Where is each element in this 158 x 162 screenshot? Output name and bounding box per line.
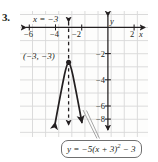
vertex-label: (−3, −3) [23, 52, 55, 61]
y-tick-label-neg8: −8 [96, 115, 105, 124]
equation-lead: y = −5(x + 3) [67, 144, 117, 154]
y-axis-label: y [110, 17, 114, 26]
x-tick-label-neg6: −6 [24, 30, 33, 39]
x-tick-label-neg2: −2 [72, 30, 81, 39]
equation-callout: y = −5(x + 3)2 − 3 [61, 140, 142, 158]
parabola-figure: 3. [0, 0, 158, 162]
y-tick-label-neg4: −4 [96, 76, 105, 85]
y-tick-label-neg6: −6 [96, 102, 105, 111]
x-tick-label-2: 2 [130, 30, 134, 39]
y-tick-label-neg2: −2 [96, 50, 105, 59]
x-axis [26, 24, 145, 30]
equation-tail: − 3 [120, 144, 135, 154]
axis-of-symmetry-label: x = −3 [32, 15, 59, 24]
x-tick-label-neg4: −4 [50, 30, 59, 39]
graph-svg [0, 0, 158, 162]
y-axis [105, 16, 111, 130]
vertex-point [66, 60, 71, 65]
x-axis-label: x [139, 30, 143, 39]
